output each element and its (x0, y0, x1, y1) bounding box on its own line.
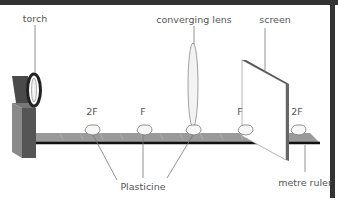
marker-f-left: F (140, 106, 145, 117)
converging-lens (188, 43, 198, 127)
screen-label: screen (259, 14, 291, 25)
screen (242, 60, 289, 161)
torch-icon (12, 74, 41, 158)
diagram-figure: torch converging lens screen Plasticine … (0, 0, 338, 204)
converging-lens-label: converging lens (156, 14, 232, 25)
marker-2f-right: 2F (291, 106, 303, 117)
metre-ruler-label: metre ruler (278, 177, 332, 188)
marker-f-right: F (237, 106, 242, 117)
plasticine-label: Plasticine (120, 181, 165, 192)
marker-2f-left: 2F (86, 106, 98, 117)
torch-label: torch (23, 13, 47, 24)
